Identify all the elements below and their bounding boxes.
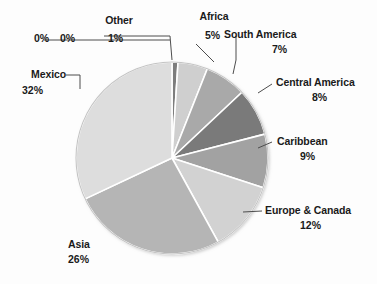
label-asia-percent: 26% <box>68 253 89 265</box>
label-europe-canada: Europe & Canada <box>265 204 351 217</box>
label-other: Other <box>88 14 150 27</box>
label-zero-a: 0% <box>34 32 49 44</box>
label-zero-b: 0% <box>60 32 75 44</box>
leader-line-central-america <box>258 84 272 93</box>
label-mexico-percent: 32% <box>22 84 43 96</box>
label-africa-percent: 5% <box>205 29 220 41</box>
label-mexico: Mexico <box>4 68 66 81</box>
label-other-percent: 1% <box>108 32 123 44</box>
label-caribbean-percent: 9% <box>300 150 315 162</box>
label-africa-name: Africa <box>186 10 242 23</box>
label-asia: Asia <box>68 238 90 251</box>
label-south-america-percent: 7% <box>272 43 287 55</box>
label-europe-canada-percent: 12% <box>300 219 321 231</box>
label-caribbean-name: Caribbean <box>277 135 327 148</box>
label-south-america-name: South America <box>224 28 296 41</box>
pie-chart-figure: Other 0% 0% 1% Africa 5% South America 7… <box>0 0 377 284</box>
label-central-america-percent: 8% <box>312 91 327 103</box>
label-asia-name: Asia <box>68 238 90 251</box>
label-south-america: South America <box>224 28 296 41</box>
leader-line-south-america <box>233 36 236 74</box>
label-central-america: Central America <box>276 76 355 89</box>
label-other-name: Other <box>88 14 150 27</box>
label-europe-canada-name: Europe & Canada <box>265 204 351 217</box>
leader-line-mexico <box>66 75 80 89</box>
label-africa: Africa <box>186 10 242 23</box>
label-caribbean: Caribbean <box>277 135 327 148</box>
leader-line-africa <box>196 44 214 62</box>
label-mexico-name: Mexico <box>4 68 66 81</box>
label-central-america-name: Central America <box>276 76 355 89</box>
pie-slices <box>76 62 268 254</box>
